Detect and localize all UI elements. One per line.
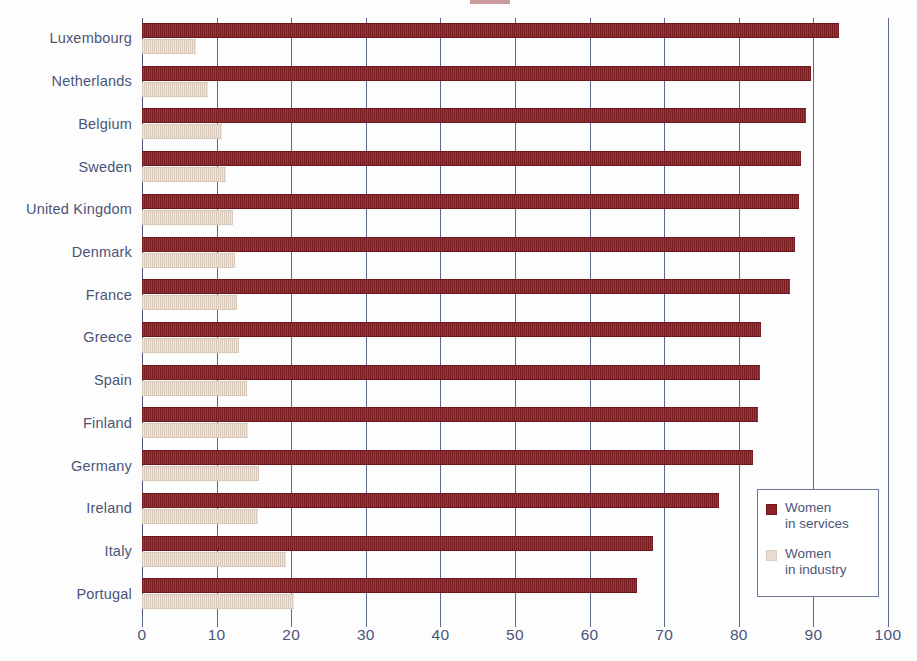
bar-services <box>142 108 806 123</box>
bar-services <box>142 536 653 551</box>
bar-row <box>142 360 888 403</box>
y-axis-label-greece: Greece <box>2 329 132 345</box>
bar-row <box>142 189 888 232</box>
bar-services <box>142 493 719 508</box>
x-axis-label-100: 100 <box>875 626 902 644</box>
x-tick-0 <box>142 616 143 627</box>
legend-label-services-line1: Women <box>785 500 831 515</box>
bar-industry <box>142 210 233 225</box>
legend-label-industry-line2: in industry <box>785 562 847 577</box>
x-axis-tick-labels: 0102030405060708090100 <box>0 626 917 656</box>
bar-services <box>142 450 753 465</box>
bar-row <box>142 232 888 275</box>
legend-label-industry-line1: Women <box>785 546 831 561</box>
x-axis-label-80: 80 <box>730 626 748 644</box>
x-tick-50 <box>515 616 516 627</box>
legend-label-industry: Women in industry <box>785 546 847 578</box>
bar-industry <box>142 552 286 567</box>
bar-services <box>142 322 761 337</box>
bar-services <box>142 365 760 380</box>
x-axis-label-0: 0 <box>138 626 147 644</box>
x-tick-10 <box>217 616 218 627</box>
horizontal-bar-chart: LuxembourgNetherlandsBelgiumSwedenUnited… <box>0 0 917 661</box>
bar-services <box>142 151 801 166</box>
y-axis-label-luxembourg: Luxembourg <box>2 30 132 46</box>
y-axis-label-belgium: Belgium <box>2 116 132 132</box>
x-tick-40 <box>440 616 441 627</box>
legend-item-services: Women in services <box>766 500 878 532</box>
bar-row <box>142 317 888 360</box>
y-axis-label-sweden: Sweden <box>2 159 132 175</box>
bar-services <box>142 237 795 252</box>
bar-industry <box>142 423 248 438</box>
legend-label-services: Women in services <box>785 500 849 532</box>
bar-row <box>142 146 888 189</box>
bar-industry <box>142 253 235 268</box>
legend-swatch-industry-icon <box>766 550 777 561</box>
bar-services <box>142 578 637 593</box>
y-axis-label-portugal: Portugal <box>2 586 132 602</box>
y-axis-label-netherlands: Netherlands <box>2 73 132 89</box>
y-axis-label-ireland: Ireland <box>2 500 132 516</box>
legend-item-industry: Women in industry <box>766 546 878 578</box>
bar-services <box>142 66 811 81</box>
x-axis-label-10: 10 <box>208 626 226 644</box>
chart-legend: Women in services Women in industry <box>757 489 879 597</box>
x-tick-20 <box>291 616 292 627</box>
x-tick-70 <box>664 616 665 627</box>
x-tick-100 <box>888 616 889 627</box>
x-axis-label-90: 90 <box>804 626 822 644</box>
bar-industry <box>142 338 239 353</box>
bar-row <box>142 274 888 317</box>
bar-industry <box>142 594 294 609</box>
legend-label-services-line2: in services <box>785 516 849 531</box>
y-axis-label-spain: Spain <box>2 372 132 388</box>
x-axis-label-60: 60 <box>581 626 599 644</box>
cropped-title-artifact <box>470 0 510 4</box>
y-axis-label-united-kingdom: United Kingdom <box>2 201 132 217</box>
x-axis-label-30: 30 <box>357 626 375 644</box>
gridline-100 <box>888 18 889 616</box>
bar-services <box>142 407 758 422</box>
legend-swatch-services-icon <box>766 504 777 515</box>
bar-row <box>142 61 888 104</box>
bar-services <box>142 194 799 209</box>
bar-services <box>142 279 790 294</box>
y-axis-label-germany: Germany <box>2 458 132 474</box>
x-axis-label-70: 70 <box>655 626 673 644</box>
bar-industry <box>142 381 247 396</box>
bar-industry <box>142 466 259 481</box>
bar-services <box>142 23 839 38</box>
bar-row <box>142 445 888 488</box>
bar-row <box>142 402 888 445</box>
bar-industry <box>142 295 237 310</box>
x-tick-90 <box>813 616 814 627</box>
x-axis-label-50: 50 <box>506 626 524 644</box>
bar-industry <box>142 39 196 54</box>
x-axis-label-20: 20 <box>282 626 300 644</box>
bar-industry <box>142 167 226 182</box>
bar-industry <box>142 124 222 139</box>
bar-row <box>142 103 888 146</box>
y-axis-label-finland: Finland <box>2 415 132 431</box>
x-axis-label-40: 40 <box>431 626 449 644</box>
bar-row <box>142 18 888 61</box>
y-axis-label-denmark: Denmark <box>2 244 132 260</box>
y-axis-label-france: France <box>2 287 132 303</box>
x-tick-80 <box>739 616 740 627</box>
bar-industry <box>142 509 258 524</box>
y-axis-label-italy: Italy <box>2 543 132 559</box>
x-tick-60 <box>590 616 591 627</box>
y-axis-category-labels: LuxembourgNetherlandsBelgiumSwedenUnited… <box>0 18 132 616</box>
bar-industry <box>142 82 208 97</box>
x-tick-30 <box>366 616 367 627</box>
